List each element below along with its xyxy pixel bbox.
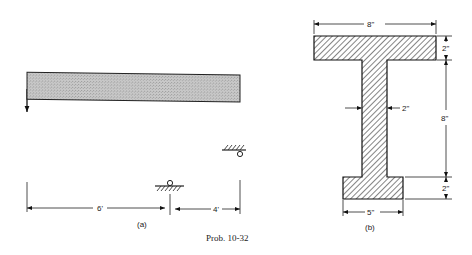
dim-top-flange-thickness: 2": [442, 44, 449, 53]
ceiling-pin-support-icon: [222, 145, 246, 157]
panel-b-cross-section: 8" 2" 8" 2" 2": [314, 20, 452, 232]
dim-6ft: 6': [97, 204, 103, 213]
dim-top-flange-width: 8": [367, 20, 374, 29]
panel-b-label: (b): [365, 223, 375, 232]
dim-bottom-flange-width: 5": [367, 208, 374, 217]
beam: [27, 72, 240, 102]
figure-caption: Prob. 10-32: [206, 233, 249, 243]
panel-a-beam-diagram: P: [27, 72, 246, 229]
i-beam-section: [314, 36, 436, 199]
dim-4ft: 4': [213, 205, 219, 214]
panel-a-label: (a): [137, 220, 147, 229]
dim-web-height: 8": [441, 114, 448, 123]
beam-dimension-lines: [27, 180, 240, 215]
dim-bottom-flange-thickness: 2": [442, 184, 449, 193]
roller-support-icon: [155, 180, 184, 191]
problem-figure: P: [0, 0, 472, 255]
dim-web-thickness: 2": [402, 104, 409, 113]
